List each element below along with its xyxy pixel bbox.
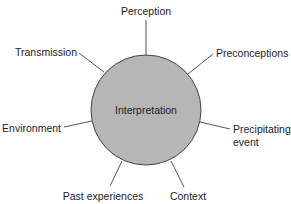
spoke-transmission <box>79 53 104 72</box>
label-precipitating-event-line1: Precipitating <box>233 123 291 135</box>
label-perception: Perception <box>121 5 171 17</box>
label-transmission: Transmission <box>15 46 77 58</box>
spoke-preconceptions <box>188 54 213 74</box>
label-preconceptions: Preconceptions <box>216 47 288 59</box>
spoke-past-experiences <box>110 161 122 186</box>
center-label: Interpretation <box>115 104 177 116</box>
spoke-context <box>171 161 184 187</box>
spoke-environment <box>64 121 92 127</box>
label-past-experiences: Past experiences <box>63 190 144 202</box>
spoke-precipitating-event <box>200 122 230 129</box>
label-context: Context <box>170 190 206 202</box>
label-precipitating-event-line2: event <box>233 136 259 148</box>
interpretation-diagram: Interpretation Perception Preconceptions… <box>0 0 291 204</box>
label-environment: Environment <box>2 122 61 134</box>
